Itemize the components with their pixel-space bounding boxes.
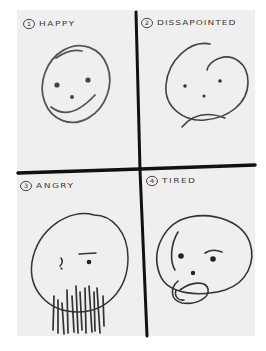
quadrant-3-number: 3 [20,181,32,191]
angry-face [31,214,128,334]
quadrant-4-label: 4TIRED [146,176,197,186]
quadrant-4-title: TIRED [162,176,197,185]
horizontal-divider [18,165,255,173]
quadrant-1-label: 1HAPPY [23,19,76,29]
sketch-drawing [0,0,266,351]
quadrant-1-title: HAPPY [39,19,76,28]
quadrant-2-label: 2DISSAPOINTED [141,18,236,28]
quadrant-1-number: 1 [23,19,35,29]
quadrant-3-label: 3ANGRY [20,181,75,191]
vertical-divider [136,12,147,336]
quadrant-4-number: 4 [146,176,158,186]
tired-face [157,216,252,304]
quadrant-2-title: DISSAPOINTED [157,18,236,27]
quadrant-2-number: 2 [141,18,153,28]
disappointed-face [166,43,248,127]
quadrant-3-title: ANGRY [36,181,75,190]
happy-face [32,36,121,132]
